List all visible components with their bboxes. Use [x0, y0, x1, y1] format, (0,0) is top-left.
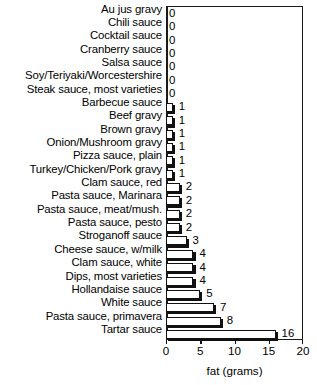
bar-shadow: [179, 212, 182, 221]
category-label: Beef gravy: [0, 109, 162, 121]
bar-shadow: [172, 158, 175, 167]
bar-shadow: [186, 239, 189, 248]
bar-row: 5: [166, 288, 303, 302]
bar-shadow: [179, 225, 182, 234]
category-label: Pasta sauce, meat/mush.: [0, 203, 162, 215]
bar-shadow: [200, 292, 203, 301]
category-label: Soy/Teriyaki/Worcestershire: [0, 69, 162, 81]
x-tick-label: 10: [228, 344, 241, 358]
bar: [166, 210, 180, 219]
bar-value-label: 0: [169, 74, 175, 87]
bar-value-label: 7: [220, 301, 226, 314]
bar-value-label: 4: [199, 247, 205, 260]
bar-value-label: 0: [169, 47, 175, 60]
bar-row: 1: [166, 155, 303, 169]
x-axis: 05101520: [166, 340, 303, 360]
bar-row: 0: [166, 35, 303, 49]
category-label: Hollandaise sauce: [0, 283, 162, 295]
bar-value-label: 1: [179, 154, 185, 167]
bar-row: 4: [166, 275, 303, 289]
bar-shadow: [179, 185, 182, 194]
bar-value-label: 2: [186, 194, 192, 207]
bar-value-label: 0: [169, 7, 175, 20]
x-axis-title: fat (grams): [166, 364, 303, 378]
bar-value-label: 2: [186, 207, 192, 220]
category-label: Pasta sauce, pesto: [0, 216, 162, 228]
category-label: Onion/Mushroom gravy: [0, 136, 162, 148]
bar-value-label: 0: [169, 60, 175, 73]
category-label: Pasta sauce, Marinara: [0, 189, 162, 201]
bar-value-label: 8: [227, 314, 233, 327]
bar-value-label: 0: [169, 87, 175, 100]
category-label: Brown gravy: [0, 123, 162, 135]
category-axis-labels: Au jus gravyChili sauceCocktail sauceCra…: [0, 0, 162, 341]
bars-layer: 00000001111112222344457816: [166, 6, 303, 340]
bar-value-label: 4: [199, 261, 205, 274]
category-label: Cranberry sauce: [0, 43, 162, 55]
bar-shadow: [193, 265, 196, 274]
bar-shadow: [193, 252, 196, 261]
category-label: White sauce: [0, 296, 162, 308]
bar-value-label: 0: [169, 34, 175, 47]
category-label: Steak sauce, most varieties: [0, 83, 162, 95]
category-label: Pasta sauce, primavera: [0, 310, 162, 322]
bar-row: 0: [166, 8, 303, 22]
bar-shadow: [172, 145, 175, 154]
category-label: Salsa sauce: [0, 56, 162, 68]
bar-value-label: 1: [179, 140, 185, 153]
bar-value-label: 2: [186, 180, 192, 193]
category-label: Clam sauce, red: [0, 176, 162, 188]
bar-row: 1: [166, 115, 303, 129]
bar: [166, 317, 221, 326]
bar-shadow: [172, 118, 175, 127]
bar: [166, 263, 193, 272]
bar: [166, 277, 193, 286]
bar-row: 0: [166, 48, 303, 62]
x-tick-label: 20: [297, 344, 310, 358]
bar-row: 7: [166, 302, 303, 316]
bar-shadow: [214, 305, 217, 314]
bar-row: 1: [166, 128, 303, 142]
bar-value-label: 1: [179, 114, 185, 127]
bar-row: 0: [166, 75, 303, 89]
bar-row: 0: [166, 21, 303, 35]
category-label: Clam sauce, white: [0, 256, 162, 268]
bar-shadow: [172, 172, 175, 181]
bar-row: 3: [166, 235, 303, 249]
bar-row: 1: [166, 142, 303, 156]
bar: [166, 223, 180, 232]
bar-value-label: 5: [206, 287, 212, 300]
category-label: Turkey/Chicken/Pork gravy: [0, 163, 162, 175]
bar: [166, 250, 193, 259]
bar-row: 0: [166, 88, 303, 102]
category-label: Tartar sauce: [0, 323, 162, 335]
bar-value-label: 1: [179, 167, 185, 180]
bar-shadow: [172, 105, 175, 114]
category-label: Cheese sauce, w/milk: [0, 243, 162, 255]
bar-row: 1: [166, 101, 303, 115]
category-label: Pizza sauce, plain: [0, 149, 162, 161]
bar: [166, 330, 276, 339]
bar: [166, 290, 200, 299]
bar-shadow: [220, 319, 223, 328]
x-tick-label: 5: [197, 344, 203, 358]
bar-shadow: [193, 279, 196, 288]
bar: [166, 196, 180, 205]
bar-value-label: 2: [186, 221, 192, 234]
category-label: Chili sauce: [0, 16, 162, 28]
bar: [166, 303, 214, 312]
bar-row: 0: [166, 61, 303, 75]
category-label: Stroganoff sauce: [0, 229, 162, 241]
bar-value-label: 1: [179, 127, 185, 140]
bar-shadow: [172, 132, 175, 141]
category-label: Au jus gravy: [0, 3, 162, 15]
bar-chart: Au jus gravyChili sauceCocktail sauceCra…: [0, 0, 317, 385]
category-label: Barbecue sauce: [0, 96, 162, 108]
bar-value-label: 3: [193, 234, 199, 247]
bar: [166, 183, 180, 192]
bar-value-label: 1: [179, 100, 185, 113]
bar-value-label: 16: [282, 327, 295, 340]
category-label: Cocktail sauce: [0, 29, 162, 41]
bar-shadow: [179, 198, 182, 207]
category-label: Dips, most varieties: [0, 270, 162, 282]
